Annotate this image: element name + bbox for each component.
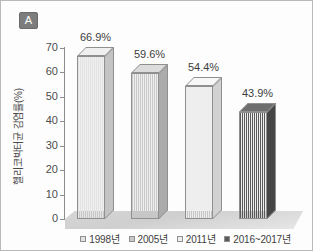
y-axis-tick-label: 50: [34, 91, 58, 102]
y-axis-tick-label: 40: [34, 115, 58, 126]
y-axis-tick: [60, 121, 65, 122]
legend-item[interactable]: 2011년: [177, 231, 216, 246]
bar-value-label: 43.9%: [227, 87, 288, 99]
y-axis-tick-label-wrap: 10: [28, 189, 58, 200]
y-axis-tick: [60, 48, 65, 49]
legend-swatch: [80, 236, 86, 242]
legend-item[interactable]: 2005년: [129, 231, 168, 246]
y-axis-tick-label-wrap: 30: [28, 140, 58, 151]
y-axis-tick-label-wrap: 0: [28, 213, 58, 224]
bar-column[interactable]: [131, 64, 168, 219]
legend-item[interactable]: 1998년: [80, 231, 119, 246]
bar-value-label: 66.9%: [65, 31, 126, 43]
y-axis-tick-label-wrap: 70: [28, 42, 58, 53]
bar-column[interactable]: [77, 47, 114, 219]
y-axis-tick-label-wrap: 50: [28, 91, 58, 102]
chart-legend: 1998년2005년2011년2016~2017년: [65, 231, 306, 246]
plot-area: 헬리코박터균 감염률(%) 010203040506070 66.9%59.6%…: [1, 1, 313, 251]
y-axis-tick-label: 60: [34, 66, 58, 77]
y-axis-tick-label: 10: [34, 189, 58, 200]
bar-front-face: [185, 86, 213, 219]
y-axis-tick-label-wrap: 60: [28, 66, 58, 77]
y-axis-tick-label-wrap: 20: [28, 164, 58, 175]
y-axis-tick: [60, 97, 65, 98]
y-axis-tick: [60, 170, 65, 171]
bar-value-label: 54.4%: [173, 61, 234, 73]
y-axis-tick-label: 0: [34, 213, 58, 224]
bar-side-face: [267, 103, 276, 219]
y-axis-tick: [60, 219, 65, 220]
y-axis-tick: [60, 195, 65, 196]
legend-swatch: [129, 236, 135, 242]
bar-side-face: [213, 77, 222, 219]
bar-front-face: [131, 73, 159, 219]
legend-swatch: [177, 236, 183, 242]
y-axis-tick-label: 20: [34, 164, 58, 175]
bar-front-face: [77, 56, 105, 219]
legend-swatch: [224, 236, 230, 242]
y-axis-tick: [60, 146, 65, 147]
bar-side-face: [105, 47, 114, 219]
y-axis-tick-label: 70: [34, 42, 58, 53]
bar-column[interactable]: [239, 103, 276, 219]
bar-side-face: [159, 64, 168, 219]
bar-front-face: [239, 112, 267, 219]
y-axis-tick-label-wrap: 40: [28, 115, 58, 126]
bar-value-label: 59.6%: [119, 48, 180, 60]
legend-label: 2011년: [186, 231, 216, 246]
bar-column[interactable]: [185, 77, 222, 219]
y-axis-tick-label: 30: [34, 140, 58, 151]
legend-label: 1998년: [89, 231, 119, 246]
y-axis-title: 헬리코박터균 감염률(%): [10, 77, 25, 197]
legend-label: 2005년: [138, 231, 168, 246]
y-axis-tick: [60, 72, 65, 73]
legend-item[interactable]: 2016~2017년: [224, 231, 290, 246]
chart-figure: A 헬리코박터균 감염률(%) 010203040506070 66.9%59.…: [0, 0, 313, 251]
legend-label: 2016~2017년: [233, 231, 290, 246]
